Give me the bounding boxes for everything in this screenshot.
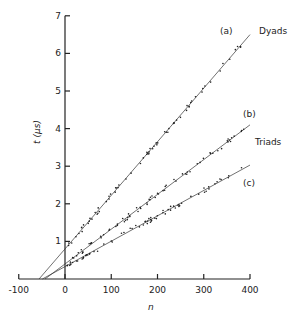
data-point: [103, 234, 105, 236]
data-point: [125, 178, 127, 180]
data-point: [93, 251, 95, 253]
data-point: [127, 217, 129, 219]
data-point: [146, 151, 148, 153]
data-point: [158, 193, 160, 195]
data-point: [123, 232, 125, 234]
data-point: [148, 218, 150, 220]
series-label-a: (a): [220, 26, 233, 36]
data-point: [235, 49, 237, 51]
data-point: [97, 251, 99, 253]
data-point: [237, 46, 239, 48]
data-point: [143, 157, 145, 159]
data-point: [187, 171, 189, 173]
data-point: [229, 58, 231, 60]
data-point: [181, 202, 183, 204]
data-point: [170, 209, 172, 211]
data-point: [108, 229, 110, 231]
data-point: [140, 163, 142, 165]
data-point: [191, 100, 193, 102]
data-point: [83, 256, 85, 258]
data-point: [196, 163, 198, 165]
data-point: [89, 218, 91, 220]
data-point: [203, 187, 205, 189]
data-point: [147, 220, 149, 222]
data-point: [214, 183, 216, 185]
data-point: [167, 209, 169, 211]
data-point: [221, 148, 223, 150]
data-point: [219, 70, 221, 72]
data-point: [106, 201, 108, 203]
y-axis-label: t (µs): [32, 120, 42, 144]
data-point: [129, 228, 131, 230]
data-point: [222, 63, 224, 65]
data-point: [117, 223, 119, 225]
data-point: [78, 233, 80, 235]
data-point: [98, 211, 100, 213]
data-point: [125, 219, 127, 221]
data-point: [114, 191, 116, 193]
data-point: [146, 204, 148, 206]
y-tick-label: 7: [55, 11, 61, 21]
data-point: [96, 214, 98, 216]
data-point: [156, 218, 158, 220]
data-point: [97, 207, 99, 209]
data-point: [202, 88, 204, 90]
data-point: [195, 96, 197, 98]
fit-line-1: [45, 125, 250, 279]
data-point: [140, 208, 142, 210]
data-point: [110, 193, 112, 195]
data-point: [143, 224, 145, 226]
data-point: [190, 196, 192, 198]
data-point: [121, 232, 123, 234]
data-point: [240, 46, 242, 48]
data-point: [77, 252, 79, 254]
data-point: [228, 175, 230, 177]
data-point: [130, 172, 132, 174]
data-point: [70, 261, 72, 263]
data-point: [146, 202, 148, 204]
data-point: [157, 215, 159, 217]
data-point: [186, 110, 188, 112]
data-point: [156, 144, 158, 146]
data-point: [188, 105, 190, 107]
data-point: [220, 179, 222, 181]
y-tick-label: 5: [55, 86, 61, 96]
data-point: [87, 223, 89, 225]
data-point: [164, 131, 166, 133]
data-point: [75, 236, 77, 238]
data-point: [174, 207, 176, 209]
data-point: [233, 135, 235, 137]
data-point: [85, 254, 87, 256]
series-label-b: (b): [243, 109, 256, 119]
data-point: [241, 167, 243, 169]
data-point: [189, 171, 191, 173]
data-point: [72, 262, 74, 264]
data-point: [176, 119, 178, 121]
data-point: [88, 220, 90, 222]
data-point: [203, 158, 205, 160]
x-tick-label: 200: [149, 285, 166, 295]
data-point: [149, 199, 151, 201]
data-point: [199, 162, 201, 164]
fit-line-0: [39, 35, 250, 279]
data-points: [67, 46, 245, 267]
data-point: [81, 258, 83, 260]
fit-lines: [39, 35, 250, 279]
data-point: [149, 148, 151, 150]
data-point: [68, 242, 70, 244]
data-point: [108, 195, 110, 197]
data-point: [178, 204, 180, 206]
y-tick-label: 6: [55, 48, 61, 58]
data-point: [68, 245, 70, 247]
data-point: [89, 253, 91, 255]
data-point: [175, 180, 177, 182]
data-point: [81, 249, 83, 251]
data-point: [148, 151, 150, 153]
data-point: [81, 226, 83, 228]
data-point: [77, 260, 79, 262]
data-point: [90, 242, 92, 244]
data-point: [122, 218, 124, 220]
x-tick-label: 400: [241, 285, 258, 295]
data-point: [151, 220, 153, 222]
data-point: [135, 225, 137, 227]
